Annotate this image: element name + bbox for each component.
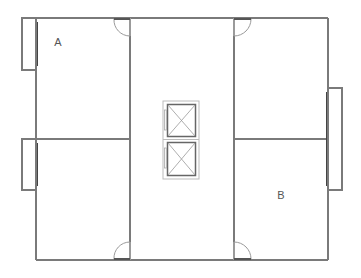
- room-b-label: B: [277, 189, 284, 201]
- elevator-1: [165, 105, 196, 137]
- bay-right: [328, 88, 342, 190]
- elevator-door-icon: [165, 148, 167, 168]
- door-room-a: [114, 18, 130, 36]
- room-a-label: A: [54, 36, 61, 48]
- bay-upper-left: [22, 18, 36, 70]
- elevator-door-icon: [165, 110, 167, 130]
- elevator-2: [165, 143, 196, 176]
- door-room-lower-left: [114, 242, 130, 260]
- door-swing-arc: [234, 19, 251, 36]
- door-swing-arc: [114, 242, 130, 259]
- door-room-upper-right: [234, 18, 251, 36]
- door-room-b: [234, 242, 251, 260]
- elevator-core: [163, 101, 199, 179]
- door-swing-arc: [114, 19, 130, 36]
- bay-lower-left: [22, 139, 36, 190]
- door-swing-arc: [234, 242, 251, 259]
